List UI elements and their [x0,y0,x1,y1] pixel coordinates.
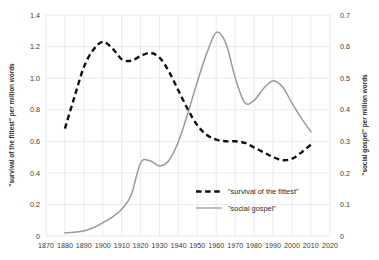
right-tick-label: 0.5 [340,74,350,83]
right-tick-label: 0.1 [340,200,350,209]
x-axis-tick-labels: 1870 1880 1890 1900 1910 1920 1930 1940 … [38,241,338,250]
right-tick-label: 0.2 [340,169,350,178]
left-axis-tick-labels: 1.4 1.2 1.0 0.8 0.6 0.4 0.2 0 [30,11,40,241]
left-axis-title: "survival of the fittest" per million wo… [8,63,16,187]
x-tick-label: 1970 [227,241,243,250]
legend-label-survival-of-the-fittest: "survival of the fittest" [228,187,299,196]
left-tick-label: 0.8 [30,105,40,114]
right-tick-label: 0 [340,232,344,241]
dual-axis-line-chart: 1.4 1.2 1.0 0.8 0.6 0.4 0.2 0 0.7 0.6 0.… [0,0,379,260]
right-axis-tick-labels: 0.7 0.6 0.5 0.4 0.3 0.2 0.1 0 [340,11,350,241]
x-tick-label: 1930 [152,241,168,250]
x-tick-label: 1980 [246,241,262,250]
x-tick-label: 2010 [303,241,319,250]
x-tick-label: 1950 [189,241,205,250]
right-tick-label: 0.7 [340,11,350,20]
left-tick-label: 0.2 [30,200,40,209]
legend-label-social-gospel: "social gospel" [228,204,276,213]
x-tick-label: 1960 [208,241,224,250]
x-tick-label: 1870 [38,241,54,250]
right-axis-title: "social gospel" per million words [361,74,369,176]
x-tick-label: 1890 [76,241,92,250]
right-tick-label: 0.3 [340,137,350,146]
right-tick-label: 0.4 [340,105,350,114]
left-tick-label: 1.4 [30,11,40,20]
x-tick-label: 1910 [114,241,130,250]
left-tick-label: 0 [36,232,40,241]
x-tick-label: 2020 [322,241,338,250]
left-tick-label: 1.0 [30,74,40,83]
left-tick-label: 0.4 [30,169,40,178]
chart-container: 1.4 1.2 1.0 0.8 0.6 0.4 0.2 0 0.7 0.6 0.… [0,0,379,260]
right-tick-label: 0.6 [340,42,350,51]
x-tick-label: 1880 [57,241,73,250]
legend: "survival of the fittest" "social gospel… [196,187,299,213]
x-tick-label: 1920 [133,241,149,250]
series-line-survival-of-the-fittest [65,42,311,160]
x-tick-label: 2000 [284,241,300,250]
x-tick-label: 1990 [265,241,281,250]
x-tick-label: 1900 [95,241,111,250]
grid-lines [46,15,330,236]
left-tick-label: 0.6 [30,137,40,146]
left-tick-label: 1.2 [30,42,40,51]
x-tick-label: 1940 [170,241,186,250]
